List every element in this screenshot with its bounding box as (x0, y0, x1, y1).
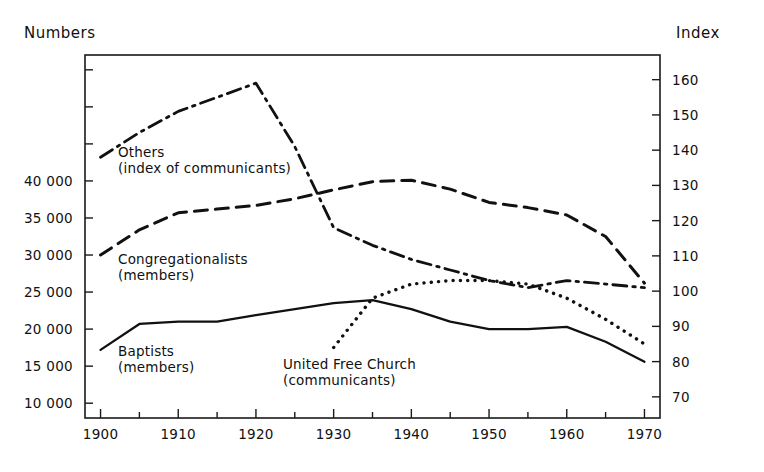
series-label-united-free-church-line1: United Free Church (283, 356, 416, 372)
series-label-congregationalists: Congregationalists (members) (118, 251, 248, 284)
series-label-others-line2: (index of communicants) (118, 160, 291, 176)
x-axis-tick-label: 1950 (471, 426, 507, 442)
series-label-congregationalists-line1: Congregationalists (118, 251, 248, 267)
right-axis-tick-label: 100 (672, 283, 699, 299)
series-label-baptists-line2: (members) (118, 359, 194, 375)
x-axis-tick-label: 1940 (394, 426, 430, 442)
right-axis-tick-label: 130 (672, 177, 699, 193)
series-label-united-free-church: United Free Church (communicants) (283, 356, 416, 389)
chart-figure: Numbers Index Others (index of communica… (0, 0, 764, 472)
series-label-united-free-church-line2: (communicants) (283, 372, 416, 388)
right-axis-tick-label: 70 (672, 389, 690, 405)
x-axis-tick-label: 1910 (160, 426, 196, 442)
plot-canvas (0, 0, 764, 472)
right-axis-tick-label: 150 (672, 107, 699, 123)
left-axis-tick-label: 35 000 (24, 210, 73, 226)
left-axis-tick-label: 15 000 (24, 358, 73, 374)
x-axis-tick-label: 1960 (549, 426, 585, 442)
left-axis-tick-label: 30 000 (24, 247, 73, 263)
series-line-united-free-church (334, 281, 645, 348)
cropped-caption-remnant (0, 463, 764, 472)
x-axis-tick-label: 1900 (83, 426, 119, 442)
right-axis-tick-label: 160 (672, 72, 699, 88)
left-axis-caption: Numbers (24, 24, 96, 42)
right-axis-tick-label: 140 (672, 142, 699, 158)
series-label-others-line1: Others (118, 144, 291, 160)
x-axis-tick-label: 1920 (238, 426, 274, 442)
left-axis-tick-label: 40 000 (24, 173, 73, 189)
right-axis-tick-label: 80 (672, 354, 690, 370)
right-axis-caption: Index (676, 24, 720, 42)
x-axis-tick-label: 1970 (627, 426, 663, 442)
series-label-baptists: Baptists (members) (118, 343, 194, 376)
left-axis-tick-label: 20 000 (24, 321, 73, 337)
series-label-congregationalists-line2: (members) (118, 267, 248, 283)
cropped-title-remnant (0, 0, 764, 5)
right-axis-tick-label: 110 (672, 248, 699, 264)
left-axis-tick-label: 25 000 (24, 284, 73, 300)
right-axis-tick-label: 90 (672, 318, 690, 334)
left-axis-tick-label: 10 000 (24, 395, 73, 411)
right-axis-tick-label: 120 (672, 213, 699, 229)
x-axis-tick-label: 1930 (316, 426, 352, 442)
series-label-others: Others (index of communicants) (118, 144, 291, 177)
series-label-baptists-line1: Baptists (118, 343, 194, 359)
